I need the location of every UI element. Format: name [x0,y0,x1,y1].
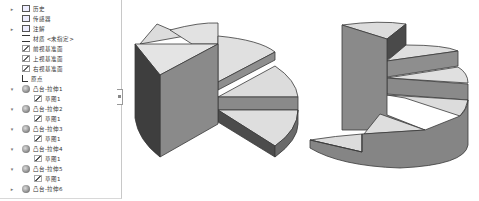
tree-item[interactable]: 右视基准面 [22,64,63,73]
feature-manager-tree: ▸历史传感器▸注解材质 <未指定>前视基准面上视基准面右视基准面原点▾凸台-拉伸… [0,0,122,199]
extrude-icon [22,85,30,93]
tree-item-label: 历史 [33,5,45,13]
expand-toggle-icon[interactable]: ▸ [9,26,15,32]
sensor-icon [22,15,30,22]
expand-toggle-icon[interactable]: ▾ [9,86,15,92]
tree-item-label: 凸台-拉伸2 [33,105,62,113]
tree-item-label: 原点 [31,75,43,83]
extrude-icon [22,105,30,113]
origin-icon [22,75,28,82]
tree-item-label: 凸台-拉伸4 [33,145,62,153]
tree-item[interactable]: ▾凸台-拉伸5 [22,164,62,173]
extrude-icon [22,145,30,153]
expand-toggle-icon[interactable]: ▾ [9,126,15,132]
tree-item[interactable]: 草图1 [34,114,61,123]
tree-item-label: 凸台-拉伸3 [33,125,62,133]
extrude-icon [22,125,30,133]
tree-item[interactable]: 前视基准面 [22,44,63,53]
tree-item[interactable]: ▸注解 [22,24,45,33]
model-view-left[interactable] [130,0,305,201]
sketch-icon [34,115,42,122]
tree-item-label: 凸台-拉伸1 [33,85,62,93]
model-view-right[interactable] [300,0,479,201]
expand-toggle-icon[interactable]: ▾ [9,146,15,152]
tree-item[interactable]: 草图1 [34,134,61,143]
tree-item-label: 草图1 [45,155,61,163]
expand-toggle-icon[interactable]: ▸ [9,186,15,192]
sketch-icon [34,95,42,102]
history-icon [22,5,30,12]
tree-item-label: 草图1 [45,135,61,143]
tree-item[interactable]: 草图1 [34,174,61,183]
tree-item[interactable]: ▾凸台-拉伸4 [22,144,62,153]
tree-item[interactable]: 上视基准面 [22,54,63,63]
tree-item-label: 右视基准面 [33,65,63,73]
expand-toggle-icon[interactable]: ▾ [9,166,15,172]
tree-item-label: 前视基准面 [33,45,63,53]
plane-icon [22,55,30,62]
tree-item-label: 注解 [33,25,45,33]
extrude-icon [22,165,30,173]
annotation-icon [22,25,30,32]
tree-item[interactable]: ▾凸台-拉伸1 [22,84,62,93]
tree-item-label: 上视基准面 [33,55,63,63]
tree-item[interactable]: 草图1 [34,94,61,103]
material-icon [22,35,30,42]
panel-collapse-handle[interactable] [117,89,123,105]
expand-toggle-icon[interactable]: ▸ [9,6,15,12]
expand-toggle-icon[interactable]: ▾ [9,106,15,112]
tree-item-label: 草图1 [45,95,61,103]
tree-item[interactable]: 传感器 [22,14,51,23]
tree-item-label: 草图1 [45,115,61,123]
tree-item[interactable]: 原点 [22,74,43,83]
tree-item[interactable]: ▸凸台-拉伸6 [22,184,62,193]
tree-item-label: 凸台-拉伸5 [33,165,62,173]
plane-icon [22,65,30,72]
tree-item-label: 草图1 [45,175,61,183]
tree-item[interactable]: ▸历史 [22,4,45,13]
tree-item-label: 凸台-拉伸6 [33,185,62,193]
extrude-icon [22,185,30,193]
sketch-icon [34,175,42,182]
tree-item[interactable]: ▾凸台-拉伸3 [22,124,62,133]
tree-item[interactable]: ▾凸台-拉伸2 [22,104,62,113]
tree-item[interactable]: 草图1 [34,154,61,163]
plane-icon [22,45,30,52]
tree-item[interactable]: 材质 <未指定> [22,34,74,43]
tree-item-label: 传感器 [33,15,51,23]
tree-item-label: 材质 <未指定> [33,35,74,43]
sketch-icon [34,135,42,142]
sketch-icon [34,155,42,162]
